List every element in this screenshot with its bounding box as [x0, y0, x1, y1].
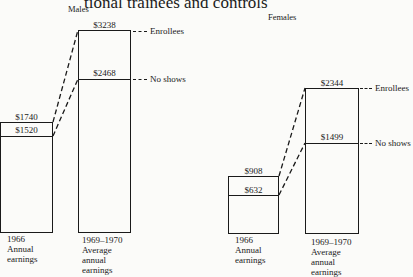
males-noshows-connector [53, 79, 78, 136]
females-noshows-connector [279, 143, 305, 195]
males-enrollees-connector [53, 30, 78, 122]
females-enrollees-connector [279, 88, 305, 176]
